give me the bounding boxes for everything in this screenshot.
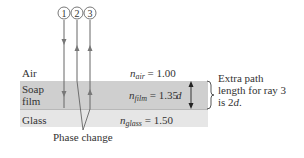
thickness-arrow	[189, 81, 194, 109]
ray-2	[75, 20, 80, 81]
svg-text:1: 1	[62, 8, 67, 19]
ray-3	[88, 20, 93, 109]
ray-3-marker: 3	[84, 7, 96, 19]
ray-diagram-graphics: 1 2 3	[0, 0, 304, 158]
ray-1-marker: 1	[58, 7, 70, 19]
ray-1	[62, 20, 67, 108]
ray-2-marker: 2	[71, 7, 83, 19]
phase-change-pointers	[77, 81, 90, 130]
svg-text:3: 3	[88, 8, 93, 19]
brace-icon	[207, 81, 214, 109]
svg-text:2: 2	[75, 8, 80, 19]
